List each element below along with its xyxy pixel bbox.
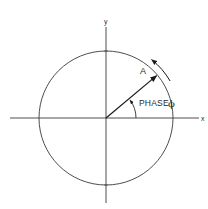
- y-axis-label: y: [104, 18, 108, 26]
- phase-label: PHASE: [139, 98, 169, 108]
- x-axis-label: x: [201, 115, 205, 122]
- amplitude-vector: [106, 76, 157, 118]
- phase-angle-arc: [130, 100, 136, 118]
- phase-symbol: ϕ: [168, 98, 175, 109]
- phasor-diagram: x y A PHASE ϕ: [0, 0, 208, 209]
- vector-label: A: [140, 66, 146, 76]
